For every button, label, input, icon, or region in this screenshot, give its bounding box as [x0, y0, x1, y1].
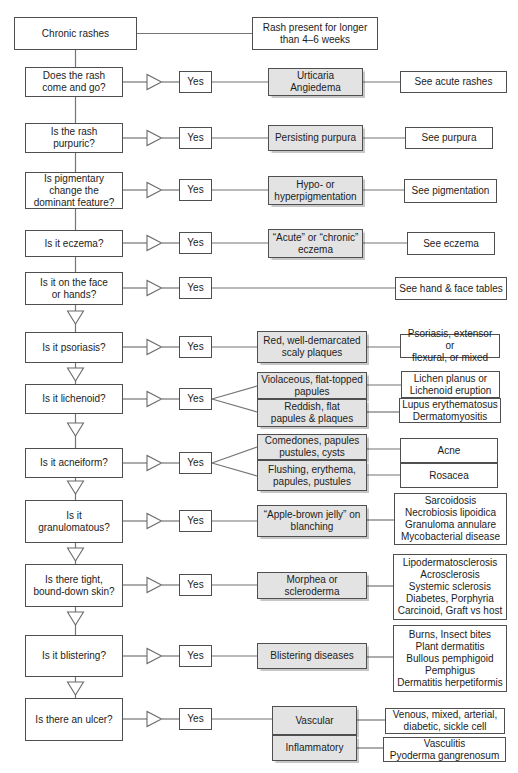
arrow-right-icon — [147, 131, 162, 146]
result-box: See acute rashes — [400, 71, 507, 93]
result-box: Lupus erythematosus Dermatomyositis — [399, 398, 501, 423]
arrow-right-icon — [147, 236, 162, 251]
finding-box: Persisting purpura — [268, 125, 363, 151]
arrow-right-icon — [147, 281, 162, 296]
question-box: Is it acneiform? — [25, 448, 123, 478]
question-box: Does the rash come and go? — [25, 67, 123, 97]
question-box: Is there tight, bound-down skin? — [25, 564, 123, 607]
yes-box: Yes — [179, 645, 212, 667]
finding-box: Flushing, erythema, papules, pustules — [257, 460, 367, 491]
arrow-down-icon — [68, 612, 84, 625]
finding-box: Urticaria Angiedema — [268, 68, 363, 96]
yes-box: Yes — [179, 510, 212, 532]
finding-box: Violaceous, flat-topped papules — [257, 372, 367, 399]
arrow-down-icon — [68, 311, 84, 324]
result-box: Lichen planus or Lichenoid eruption — [401, 371, 500, 398]
finding-box: “Acute” or “chronic” eczema — [268, 229, 363, 258]
arrow-down-icon — [68, 548, 84, 561]
result-box: Psoriasis, extensor or flexural, or mixe… — [400, 334, 500, 358]
question-box: Is it on the face or hands? — [25, 272, 123, 305]
arrow-right-icon — [147, 514, 162, 529]
yes-box: Yes — [179, 232, 212, 254]
question-box: Is it granulomatous? — [25, 500, 123, 543]
arrow-down-icon — [68, 682, 84, 695]
result-box: Sarcoidosis Necrobiosis lipoidica Granul… — [394, 493, 507, 545]
arrow-down-icon — [68, 423, 84, 436]
result-box: Venous, mixed, arterial, diabetic, sickl… — [385, 708, 505, 734]
yes-box: Yes — [179, 336, 212, 358]
arrow-right-icon — [147, 712, 162, 727]
arrow-down-icon — [68, 481, 84, 494]
result-box: See purpura — [405, 127, 493, 149]
finding-box: Vascular — [272, 706, 357, 735]
yes-box: Yes — [179, 277, 212, 299]
finding-box: Morphea or scleroderma — [257, 572, 367, 599]
result-box: See pigmentation — [404, 179, 497, 203]
question-box: Is it blistering? — [25, 635, 123, 677]
result-box: See hand & face tables — [395, 277, 507, 300]
arrow-right-icon — [147, 649, 162, 664]
yes-box: Yes — [179, 179, 212, 201]
yes-box: Yes — [179, 708, 212, 730]
result-box: See eczema — [407, 232, 495, 255]
finding-box: Hypo- or hyperpigmentation — [268, 176, 363, 205]
arrow-right-icon — [147, 183, 162, 198]
result-box: Lipodermatosclerosis Acrosclerosis Syste… — [393, 554, 507, 620]
definition-box: Rash present for longer than 4–6 weeks — [252, 17, 378, 50]
arrow-right-icon — [147, 75, 162, 90]
arrow-right-icon — [147, 340, 162, 355]
result-box: Acne — [400, 438, 498, 463]
yes-box: Yes — [179, 452, 212, 474]
result-box: Burns, Insect bites Plant dermatitis Bul… — [393, 625, 507, 692]
question-box: Is it eczema? — [25, 230, 123, 257]
arrow-right-icon — [147, 578, 162, 593]
question-box: Is the rash purpuric? — [25, 123, 123, 153]
yes-box: Yes — [179, 388, 212, 410]
arrow-right-icon — [147, 456, 162, 471]
question-box: Is there an ulcer? — [25, 698, 123, 741]
finding-box: “Apple-brown jelly” on blanching — [257, 505, 367, 537]
start-box: Chronic rashes — [14, 17, 137, 50]
question-box: Is it lichenoid? — [25, 384, 123, 414]
yes-box: Yes — [179, 127, 212, 149]
finding-box: Red, well-demarcated scaly plaques — [257, 331, 367, 363]
finding-box: Comedones, papules pustules, cysts — [257, 434, 367, 460]
result-box: Rosacea — [400, 463, 498, 488]
result-box: Vasculitis Pyoderma gangrenosum — [383, 737, 506, 762]
arrow-right-icon — [147, 392, 162, 407]
arrow-down-icon — [68, 368, 84, 381]
finding-box: Blistering diseases — [257, 643, 367, 669]
finding-box: Reddish, flat papules & plaques — [257, 399, 367, 427]
question-box: Is pigmentary change the dominant featur… — [25, 172, 123, 209]
yes-box: Yes — [179, 574, 212, 596]
yes-box: Yes — [179, 71, 212, 93]
question-box: Is it psoriasis? — [25, 332, 123, 363]
finding-box: Inflammatory — [272, 735, 357, 761]
flowchart: Chronic rashes Rash present for longer t… — [0, 0, 518, 773]
